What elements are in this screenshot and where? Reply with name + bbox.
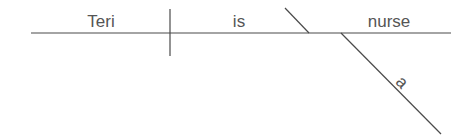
modifier-word: a — [392, 72, 413, 93]
predicate-nominative-word: nurse — [368, 12, 411, 31]
predicate-nominative-divider — [285, 8, 309, 33]
subject-word: Teri — [87, 12, 114, 31]
verb-word: is — [233, 12, 245, 31]
modifier-diagonal — [341, 33, 441, 134]
sentence-diagram: Teri is nurse a — [0, 0, 470, 138]
